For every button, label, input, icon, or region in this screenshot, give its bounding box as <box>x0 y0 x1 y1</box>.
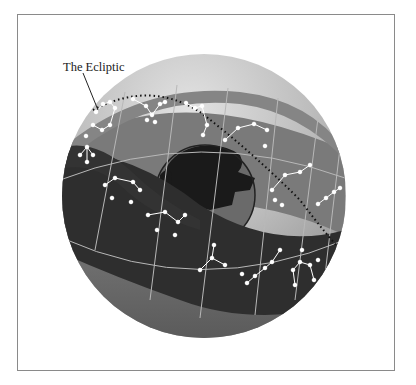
ecliptic-label: The Ecliptic <box>63 60 124 75</box>
ecliptic-label-pointer <box>83 73 98 110</box>
celestial-sphere-diagram <box>0 0 416 385</box>
